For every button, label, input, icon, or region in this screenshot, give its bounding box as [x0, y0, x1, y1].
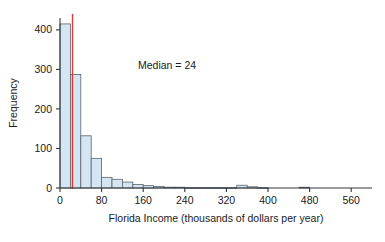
median-annotation-label: Median = 24: [138, 59, 196, 71]
x-tick-label: 560: [342, 194, 360, 206]
histogram-bar: [122, 182, 132, 188]
x-tick-label: 400: [259, 194, 277, 206]
histogram-bar: [81, 136, 91, 188]
y-tick-label: 200: [34, 103, 52, 115]
x-tick-label: 480: [301, 194, 319, 206]
y-tick-label: 0: [46, 182, 52, 194]
florida-income-histogram: 0100200300400 080160240320400480560 Flor…: [0, 0, 385, 242]
histogram-figure: 0100200300400 080160240320400480560 Flor…: [0, 0, 385, 242]
x-tick-label: 320: [218, 194, 236, 206]
x-tick-label: 160: [134, 194, 152, 206]
y-tick-label: 300: [34, 63, 52, 75]
y-axis-title: Frequency: [7, 77, 19, 127]
x-axis-title: Florida Income (thousands of dollars per…: [109, 212, 324, 224]
histogram-bar: [60, 24, 70, 188]
y-tick-label: 100: [34, 142, 52, 154]
histogram-bar: [112, 179, 122, 188]
histogram-bar: [102, 177, 112, 188]
y-tick-label: 400: [34, 23, 52, 35]
x-tick-label: 240: [176, 194, 194, 206]
x-tick-label: 0: [57, 194, 63, 206]
histogram-bar: [91, 158, 101, 188]
x-tick-label: 80: [96, 194, 108, 206]
